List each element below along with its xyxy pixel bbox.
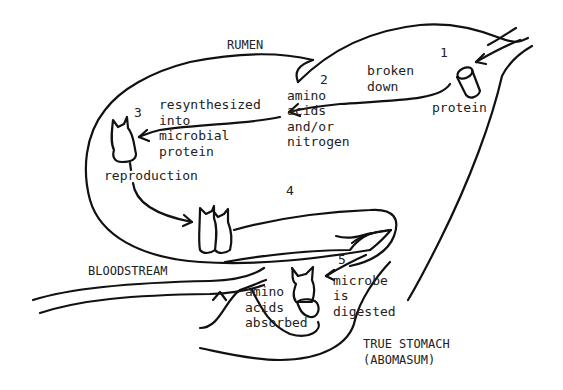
step-3-line-2: into: [159, 113, 190, 128]
protein-cylinder-icon: [456, 65, 480, 97]
rumen-label: RUMEN: [227, 38, 263, 52]
step-3-line-3: microbial: [159, 128, 229, 143]
step-5-line-3: digested: [333, 304, 396, 319]
step-4-number: 4: [286, 183, 294, 198]
step-5-number: 5: [338, 252, 346, 267]
absorbed-label-3: absorbed: [245, 315, 308, 330]
step-1-number: 1: [440, 45, 448, 60]
absorbed-label-1: amino: [245, 284, 284, 299]
abomasum-label: (ABOMASUM): [363, 353, 435, 367]
bloodstream-label: BLOODSTREAM: [88, 264, 167, 278]
step-3-line-4: protein: [159, 144, 214, 159]
step-5-line-1: microbe: [333, 273, 388, 288]
rumen-digestion-diagram: RUMEN 1 protein broken down 2 amino acid…: [0, 0, 563, 390]
true-stomach-label: TRUE STOMACH: [363, 337, 450, 351]
step-3-number: 3: [134, 105, 142, 120]
rumen-outline: [86, 24, 532, 300]
absorbed-label-2: acids: [245, 300, 284, 315]
step-2-line-4: nitrogen: [287, 134, 350, 149]
step-1-protein-label: protein: [432, 100, 487, 115]
step-2-line-3: and/or: [287, 119, 334, 134]
broken-down-label-1: broken: [367, 63, 414, 78]
two-microbes-icon: [199, 206, 231, 253]
step-2-line-1: amino: [287, 88, 326, 103]
broken-down-label-2: down: [367, 79, 398, 94]
step-4-reproduction-label: reproduction: [104, 168, 198, 183]
digested-microbe-icon: [292, 267, 319, 317]
microbe-icon: [112, 117, 136, 162]
step-2-line-2: acids: [287, 103, 326, 118]
step-5-line-2: is: [333, 288, 349, 303]
step-3-line-1: resynthesized: [159, 97, 261, 112]
step-2-number: 2: [320, 72, 328, 87]
